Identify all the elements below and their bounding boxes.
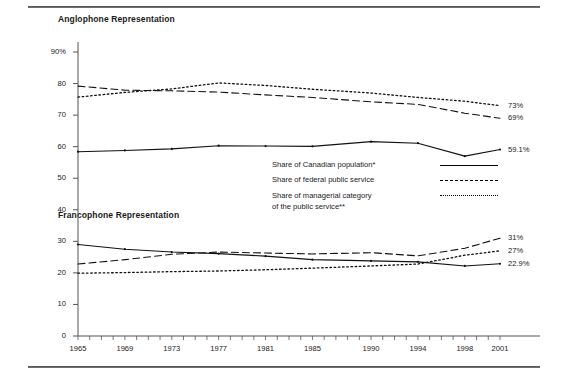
x-axis-tick-label: 1969 [108,344,142,353]
x-axis-tick-label: 1998 [448,344,482,353]
figure-container: Anglophone Representation Francophone Re… [0,0,565,381]
x-axis-tick-label: 1981 [249,344,283,353]
x-axis-tick-label: 1985 [295,344,329,353]
y-axis-tick-label: 60 [36,142,66,151]
legend-item-canadian-population: Share of Canadian population* [272,160,498,175]
x-axis-tick-label: 1990 [354,344,388,353]
y-axis-tick-label: 0 [36,331,66,340]
y-axis-tick-label: 50 [36,173,66,182]
legend-item-managerial-category: Share of managerial category of the publ… [272,190,498,212]
y-axis-tick-label: 10 [36,299,66,308]
legend-swatch-dashed-icon [440,180,498,181]
legend-label-line2: of the public service** [272,201,498,212]
x-axis-tick-label: 1973 [155,344,189,353]
legend-swatch-solid-icon [440,165,498,166]
series-end-label: 69% [508,113,523,122]
series-end-label: 31% [508,233,523,242]
y-axis-tick-label: 20 [36,268,66,277]
y-axis-tick-label: 70 [36,110,66,119]
x-axis-tick-label: 2001 [483,344,517,353]
y-axis-tick-label: 80 [36,79,66,88]
x-axis-tick-label: 1977 [202,344,236,353]
series-end-label: 22.9% [508,259,530,268]
legend-swatch-dotted-icon [440,195,498,196]
y-axis-tick-label: 40 [36,205,66,214]
x-axis-tick-label: 1994 [401,344,435,353]
y-axis-tick-label: 30 [36,236,66,245]
series-end-label: 59.1% [508,145,530,154]
x-axis-tick-label: 1965 [61,344,95,353]
legend-item-federal-public-service: Share of federal public service [272,175,498,190]
series-end-label: 27% [508,246,523,255]
y-axis-tick-label: 90% [36,47,66,56]
series-end-label: 73% [508,101,523,110]
chart-legend: Share of Canadian population* Share of f… [272,160,498,212]
